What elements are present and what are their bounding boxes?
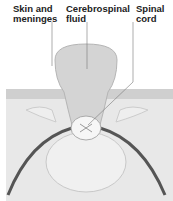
spina-bifida-diagram: Skin and meninges Cerebrospinal fluid Sp… — [0, 0, 173, 201]
vertebral-body — [46, 132, 126, 192]
label-spinal-cord: Spinal cord — [136, 4, 165, 24]
label-skin-and-meninges: Skin and meninges — [13, 4, 57, 24]
illustration — [0, 0, 173, 201]
label-cerebrospinal-fluid: Cerebrospinal fluid — [66, 4, 130, 24]
